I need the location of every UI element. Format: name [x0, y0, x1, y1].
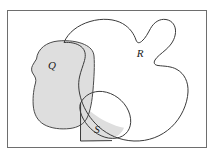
label-r: R: [136, 47, 144, 59]
set-diagram-figure: Q R S: [0, 0, 214, 158]
label-s: S: [94, 123, 100, 135]
label-q: Q: [48, 59, 56, 71]
venn-diagram-svg: Q R S: [0, 0, 214, 158]
